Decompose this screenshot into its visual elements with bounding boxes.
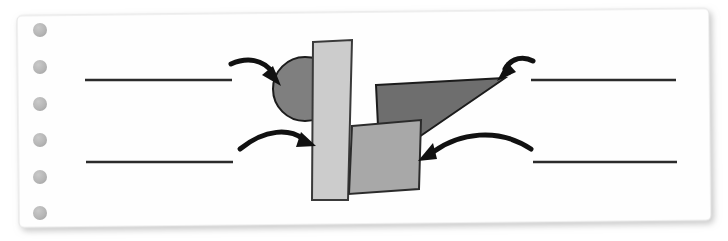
worksheet-canvas bbox=[0, 0, 728, 241]
punch-hole bbox=[33, 23, 47, 37]
paper-sheet bbox=[17, 8, 711, 227]
shape-rectangle[interactable] bbox=[312, 40, 352, 200]
shape-square[interactable] bbox=[349, 120, 421, 194]
punch-hole bbox=[33, 170, 47, 184]
punch-hole bbox=[33, 97, 47, 111]
punch-hole bbox=[33, 206, 47, 220]
paper-background bbox=[17, 8, 711, 227]
punch-hole bbox=[33, 133, 47, 147]
punch-hole bbox=[33, 60, 47, 74]
worksheet-svg bbox=[0, 0, 728, 241]
